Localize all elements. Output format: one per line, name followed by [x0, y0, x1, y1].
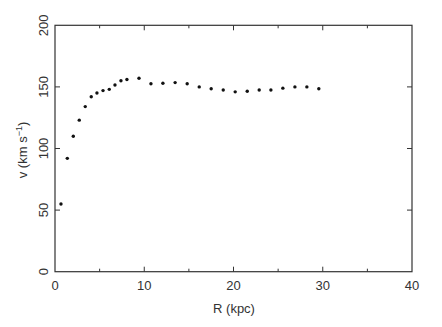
x-tick-label: 40 — [405, 278, 419, 293]
data-point — [246, 90, 249, 93]
data-point — [258, 88, 261, 91]
x-tick-label: 20 — [226, 278, 240, 293]
data-point — [59, 202, 62, 205]
data-points — [59, 77, 320, 206]
data-point — [78, 118, 81, 121]
data-point — [233, 90, 236, 93]
data-point — [269, 88, 272, 91]
data-point — [281, 86, 284, 89]
data-point — [84, 105, 87, 108]
x-tick-label: 0 — [51, 278, 58, 293]
axis-ticks — [55, 25, 412, 271]
y-axis-label: v (km s−1) — [14, 122, 30, 179]
data-point — [66, 157, 69, 160]
data-point — [119, 79, 122, 82]
y-axis-label-main: v (km s — [15, 136, 30, 178]
data-point — [149, 82, 152, 85]
data-point — [137, 77, 140, 80]
y-tick-label: 100 — [36, 138, 51, 160]
y-tick-label: 50 — [36, 203, 51, 217]
data-point — [198, 85, 201, 88]
x-axis-label: R (kpc) — [213, 301, 255, 316]
data-point — [161, 82, 164, 85]
plot-frame — [55, 25, 412, 271]
data-point — [113, 83, 116, 86]
data-point — [305, 85, 308, 88]
x-tick-label: 30 — [316, 278, 330, 293]
data-point — [209, 87, 212, 90]
data-point — [293, 85, 296, 88]
data-point — [101, 89, 104, 92]
data-point — [185, 82, 188, 85]
data-point — [125, 78, 128, 81]
data-point — [108, 88, 111, 91]
data-point — [173, 81, 176, 84]
x-tick-label: 10 — [137, 278, 151, 293]
data-point — [317, 87, 320, 90]
y-tick-label: 150 — [36, 76, 51, 98]
rotation-curve-chart: 010203040 050100150200 R (kpc) v (km s−1… — [0, 0, 442, 327]
x-tick-labels: 010203040 — [51, 278, 419, 293]
data-point — [72, 134, 75, 137]
data-point — [222, 88, 225, 91]
data-point — [95, 91, 98, 94]
y-tick-label: 0 — [36, 268, 51, 275]
data-point — [90, 95, 93, 98]
y-axis-label-superscript: −1 — [14, 126, 24, 136]
y-tick-labels: 050100150200 — [36, 14, 51, 275]
y-tick-label: 200 — [36, 14, 51, 36]
y-axis-label-close: ) — [15, 122, 30, 126]
